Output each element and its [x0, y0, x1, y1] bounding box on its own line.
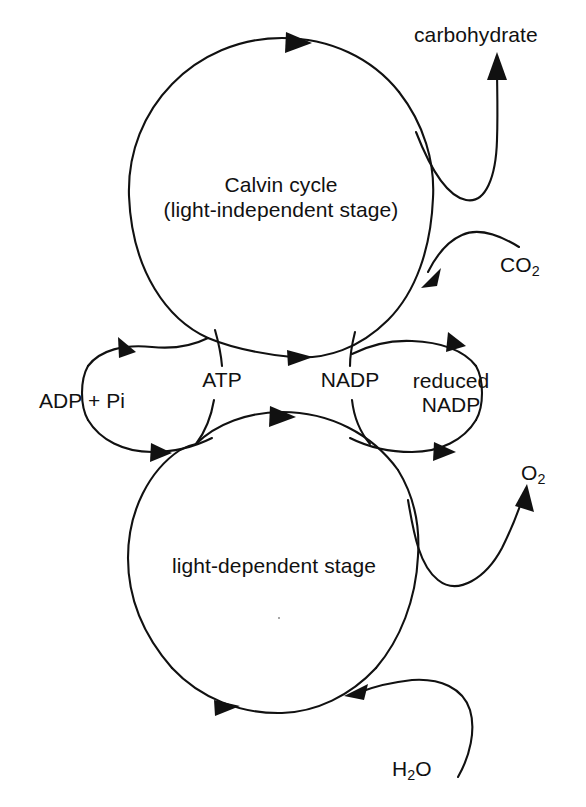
- co2-label: CO2: [500, 253, 540, 279]
- h2o-label-subscript: 2: [407, 767, 415, 783]
- o2-label-subscript: 2: [537, 471, 545, 487]
- light-dependent-arc-right: [376, 470, 418, 668]
- co2-arrowhead: [421, 268, 441, 288]
- light-dependent-arc-bottom: [172, 668, 376, 713]
- nadp-loop-top-arrowhead: [446, 332, 466, 352]
- nadp-stem-upper: [350, 332, 355, 366]
- carbohydrate-arrowhead: [487, 52, 507, 80]
- h2o-label: H2O: [392, 757, 432, 783]
- nadp-label: NADP: [321, 368, 380, 393]
- reduced-nadp-label-line1: reduced: [413, 369, 490, 394]
- nadp-loop-bottom-arrowhead: [433, 442, 456, 461]
- atp-loop-lower-arc: [88, 420, 212, 452]
- co2-label-main: CO: [500, 253, 532, 276]
- adp-pi-label: ADP + Pi: [39, 389, 125, 414]
- nadp-loop-lower-arc: [350, 420, 476, 452]
- page-speck: [278, 617, 280, 619]
- h2o-label-main: H: [392, 757, 407, 780]
- nadp-stem-lower: [352, 400, 370, 444]
- atp-label: ATP: [202, 368, 242, 393]
- co2-label-subscript: 2: [532, 263, 540, 279]
- photosynthesis-diagram: Calvin cycle (light-independent stage) l…: [0, 0, 586, 807]
- atp-stem-upper: [215, 330, 222, 366]
- o2-label-main: O: [521, 461, 537, 484]
- calvin-cycle-top-arrowhead: [285, 32, 312, 53]
- calvin-cycle-label-line1: Calvin cycle: [224, 173, 337, 198]
- atp-loop-upper-arc: [88, 338, 208, 366]
- carbohydrate-label: carbohydrate: [414, 23, 538, 48]
- calvin-cycle-label-line2: (light-independent stage): [164, 198, 399, 223]
- reduced-nadp-label-line2: NADP: [422, 393, 481, 418]
- calvin-cycle-bottom-arrowhead: [287, 350, 313, 366]
- adp-loop-top-arrowhead: [118, 337, 136, 358]
- o2-arrowhead: [515, 484, 534, 512]
- o2-flow-line: [408, 500, 522, 586]
- calvin-cycle-arc-right: [292, 92, 433, 357]
- h2o-label-tail: O: [415, 757, 431, 780]
- light-dependent-top-arrowhead: [269, 406, 296, 427]
- light-dependent-stage-label: light-dependent stage: [172, 554, 376, 579]
- carbohydrate-flow-line: [416, 68, 497, 200]
- o2-label: O2: [521, 461, 545, 487]
